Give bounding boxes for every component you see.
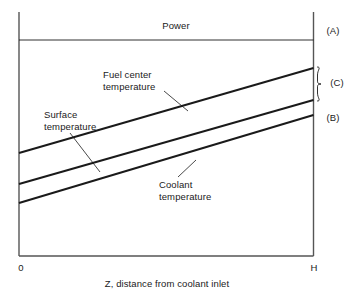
coolant-leader-line xyxy=(178,160,196,177)
x-axis-tick-end: H xyxy=(308,262,320,274)
region-b-annotation: (B) xyxy=(321,112,345,124)
region-a-annotation: (A) xyxy=(321,25,345,37)
region-c-brace xyxy=(318,67,322,101)
power-curve-label: Power xyxy=(150,20,202,32)
region-c-annotation: (C) xyxy=(325,77,349,89)
reactor-temperature-profile-figure: Power Fuel center temperature Surface te… xyxy=(0,0,357,304)
coolant-temperature-label: Coolant temperature xyxy=(159,179,225,202)
fuel-center-temperature-label: Fuel center temperature xyxy=(103,69,165,92)
surface-temperature-label: Surface temperature xyxy=(44,109,106,132)
plot-canvas xyxy=(0,0,357,304)
x-axis-title: Z, distance from coolant inlet xyxy=(62,278,272,290)
x-axis-tick-origin: 0 xyxy=(15,262,27,274)
